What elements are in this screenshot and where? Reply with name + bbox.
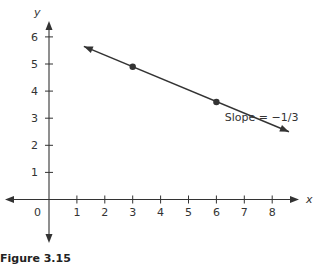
y-tick-label: 3 (31, 112, 38, 125)
y-tick-label: 5 (31, 58, 38, 71)
line-end-arrow-icon (279, 125, 289, 132)
x-tick-label: 5 (185, 206, 192, 219)
y-tick-label: 2 (31, 139, 38, 152)
x-tick-label: 6 (213, 206, 220, 219)
y-axis-label: y (33, 6, 41, 19)
x-tick-label: 8 (269, 206, 276, 219)
x-axis-label: x (305, 193, 313, 206)
slope-annotation: Slope = −1/3 (225, 111, 299, 124)
x-axis-right-arrow-icon (290, 196, 299, 203)
x-axis-left-arrow-icon (5, 196, 14, 203)
data-point (213, 99, 219, 105)
y-tick-label: 4 (31, 85, 38, 98)
y-axis-up-arrow-icon (46, 21, 53, 30)
x-tick-label: 4 (157, 206, 164, 219)
x-tick-label: 1 (73, 206, 80, 219)
x-tick-label: 3 (129, 206, 136, 219)
origin-label: 0 (34, 206, 41, 219)
figure-caption: Figure 3.15 (0, 252, 71, 265)
x-tick-label: 2 (101, 206, 108, 219)
line-start-arrow-icon (84, 46, 94, 53)
y-tick-label: 1 (31, 166, 38, 179)
y-tick-label: 6 (31, 31, 38, 44)
y-axis-down-arrow-icon (46, 234, 53, 243)
x-tick-label: 7 (241, 206, 248, 219)
data-point (130, 64, 136, 70)
